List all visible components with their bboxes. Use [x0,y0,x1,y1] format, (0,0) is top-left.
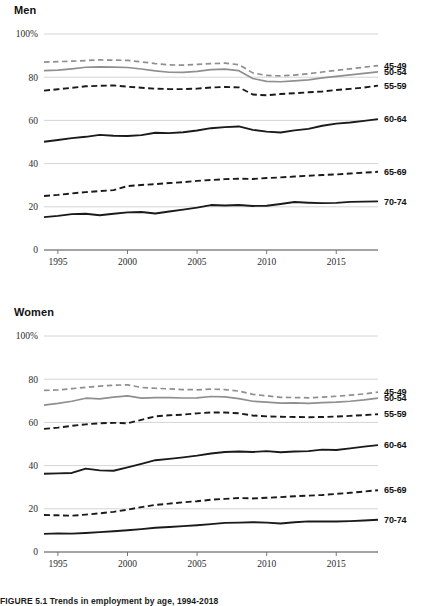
series-line-55-59 [44,412,378,428]
series-label-50-54: 50-54 [384,393,407,403]
y-axis-tick-label: 0 [33,245,38,255]
x-axis-tick-label: 2005 [188,257,207,267]
series-line-50-54 [44,396,378,405]
y-axis-tick-label: 40 [29,159,39,169]
series-label-70-74: 70-74 [384,515,407,525]
series-line-45-49 [44,60,378,76]
series-line-65-69 [44,172,378,196]
y-axis-tick-label: 60 [29,116,39,126]
y-axis-tick-label: 80 [29,375,39,385]
line-chart-women: 100%8060402001995200020052010201545-4950… [0,324,429,582]
plot-area-women: 100%8060402001995200020052010201545-4950… [0,324,429,582]
figure-caption: FIGURE 5.1 Trends in employment by age, … [0,596,429,606]
y-axis-tick-label: 20 [29,202,39,212]
series-line-50-54 [44,67,378,82]
x-axis-tick-label: 1995 [48,559,67,569]
series-line-65-69 [44,490,378,515]
x-axis-tick-label: 2015 [327,257,346,267]
series-line-70-74 [44,520,378,534]
x-axis-tick-label: 2000 [118,257,137,267]
series-label-55-59: 55-59 [384,409,407,419]
x-axis-tick-label: 2015 [327,559,346,569]
panel-title-women: Women [14,306,54,318]
x-axis-tick-label: 2005 [188,559,207,569]
series-label-55-59: 55-59 [384,81,407,91]
series-line-70-74 [44,201,378,217]
x-axis-tick-label: 1995 [48,257,67,267]
series-label-60-64: 60-64 [384,440,407,450]
y-axis-tick-label: 0 [33,547,38,557]
chart-panel-women: Women 100%806040200199520002005201020154… [0,302,429,582]
series-line-60-64 [44,445,378,474]
x-axis-tick-label: 2010 [257,559,276,569]
y-axis-tick-label: 60 [29,418,39,428]
plot-area-men: 100%8060402001995200020052010201545-4950… [0,22,429,280]
panel-title-men: Men [14,4,36,16]
y-axis-tick-label: 20 [29,504,39,514]
series-label-65-69: 65-69 [384,167,407,177]
series-label-50-54: 50-54 [384,67,407,77]
series-label-60-64: 60-64 [384,114,407,124]
x-axis-tick-label: 2000 [118,559,137,569]
x-axis-tick-label: 2010 [257,257,276,267]
series-label-65-69: 65-69 [384,485,407,495]
chart-panel-men: Men 100%8060402001995200020052010201545-… [0,0,429,300]
series-line-60-64 [44,119,378,142]
y-axis-tick-label: 100% [16,29,38,39]
series-label-70-74: 70-74 [384,197,407,207]
line-chart-men: 100%8060402001995200020052010201545-4950… [0,22,429,280]
y-axis-tick-label: 40 [29,461,39,471]
y-axis-tick-label: 100% [16,331,38,341]
series-line-55-59 [44,85,378,95]
y-axis-tick-label: 80 [29,73,39,83]
